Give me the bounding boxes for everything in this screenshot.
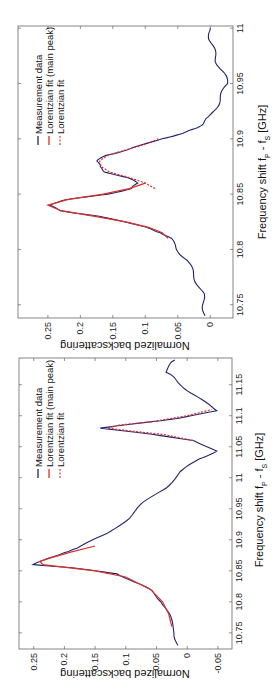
x-axis-label: Frequency shift fP - fS [GHz]: [256, 105, 271, 240]
legend-label-data: Measurement data: [33, 54, 44, 134]
x-tick-label: 11.1: [234, 407, 244, 424]
x-tick-label: 10.85: [235, 183, 245, 206]
y-tick-label: -0.05: [213, 653, 223, 674]
legend-label-main-fit: Lorentzian fit (main peak): [44, 360, 55, 467]
legend-label-fit: Lorentzian fit: [55, 79, 66, 134]
x-tick-label: 10.95: [235, 72, 245, 95]
y-tick-label: 0.15: [108, 322, 118, 340]
x-axis-label: Frequency shift fP - fS [GHz]: [253, 433, 268, 568]
legend-label-data: Measurement data: [33, 387, 44, 467]
x-tick-label: 10.9: [234, 531, 244, 549]
y-tick-label: 0.05: [151, 653, 161, 671]
x-tick-label: 10.75: [234, 622, 244, 645]
y-axis-label: Normalized backscattering: [60, 668, 190, 680]
y-tick-label: 0: [182, 653, 192, 658]
y-tick-label: 0.25: [29, 653, 39, 671]
x-tick-label: 11.15: [234, 374, 244, 396]
y-axis-label: Normalized backscattering: [60, 340, 190, 350]
x-tick-label: 10.8: [234, 593, 244, 611]
x-tick-label: 10.9: [235, 130, 245, 148]
y-tick-label: 0.25: [43, 322, 53, 340]
x-tick-label: 10.85: [234, 560, 244, 583]
y-tick-label: 0.1: [140, 322, 150, 335]
x-tick-label: 11: [235, 24, 245, 33]
y-tick-label: 0.05: [173, 322, 183, 340]
x-tick-label: 11.05: [234, 436, 244, 458]
y-tick-label: 0.2: [59, 653, 69, 666]
legend-label-fit: Lorentzian fit: [55, 412, 66, 467]
legend-label-main-fit: Lorentzian fit (main peak): [44, 27, 55, 134]
y-tick-label: 0.2: [75, 322, 85, 335]
bottom-chart-panel: -0.0500.050.10.150.20.2510.7510.810.8510…: [0, 350, 275, 698]
top-chart: 00.050.10.150.20.2510.7510.810.8510.910.…: [0, 0, 275, 350]
top-chart-panel: 00.050.10.150.20.2510.7510.810.8510.910.…: [0, 0, 275, 350]
bottom-chart: -0.0500.050.10.150.20.2510.7510.810.8510…: [0, 350, 275, 698]
x-tick-label: 10.75: [235, 293, 245, 316]
x-tick-label: 10.8: [235, 241, 245, 259]
y-tick-label: 0.1: [121, 653, 131, 666]
x-tick-label: 10.95: [234, 498, 244, 521]
y-tick-label: 0: [205, 322, 215, 327]
y-tick-label: 0.15: [90, 653, 100, 671]
x-tick-label: 11: [234, 473, 244, 482]
